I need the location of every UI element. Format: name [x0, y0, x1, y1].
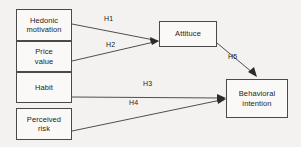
node-habit: Habit [16, 72, 72, 103]
node-perceived-risk-line1: Perceived [27, 115, 61, 125]
node-hedonic-motivation-line1: Hedonic [30, 16, 58, 26]
edge-h3 [72, 94, 226, 102]
edge-label-h3: H3 [143, 80, 152, 88]
edge-label-h2: H2 [106, 41, 115, 49]
node-hedonic-motivation-line2: motivation [26, 25, 61, 35]
edge-h2 [72, 39, 159, 61]
node-price-value-line1: Price [35, 47, 53, 57]
node-price-value-line2: value [35, 57, 53, 67]
node-hedonic-motivation: Hedonic motivation [16, 9, 72, 41]
node-habit-line1: Habit [35, 83, 53, 93]
edge-label-h4: H4 [129, 99, 138, 107]
node-perceived-risk: Perceived risk [16, 108, 72, 140]
edge-label-h1: H1 [104, 15, 113, 23]
node-behavioral-intention: Behavioral intention [226, 79, 288, 118]
node-perceived-risk-line2: risk [38, 124, 50, 134]
edge-label-h5: H5 [228, 53, 237, 61]
node-attitude: Attituce [159, 21, 217, 47]
node-attitude-line1: Attituce [175, 29, 201, 39]
node-price-value: Price value [16, 41, 72, 72]
node-behavioral-intention-line1: Behavioral [239, 89, 275, 99]
edge-h4 [72, 97, 226, 131]
node-behavioral-intention-line2: intention [242, 99, 271, 109]
edge-h1 [72, 24, 159, 43]
diagram-canvas: Hedonic motivation Price value Habit Per… [0, 0, 301, 147]
